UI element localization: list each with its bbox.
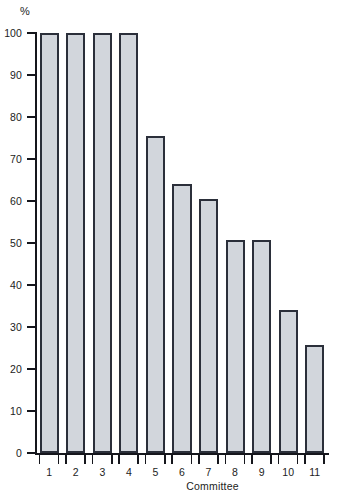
x-axis-tick <box>323 455 325 464</box>
x-axis-tick-label: 8 <box>232 466 238 478</box>
x-axis-tick <box>92 455 94 464</box>
bar <box>305 345 324 453</box>
x-axis-tick-label: 10 <box>282 466 294 478</box>
x-axis-tick <box>171 455 173 464</box>
x-axis-tick-label: 5 <box>152 466 158 478</box>
x-axis-tick <box>65 455 67 464</box>
bar <box>40 33 59 453</box>
x-axis-tick <box>118 455 120 464</box>
x-axis-tick-label: 11 <box>309 466 320 478</box>
x-axis-tick <box>84 455 86 464</box>
bar <box>146 136 165 453</box>
x-axis-tick-label: 1 <box>46 466 52 478</box>
x-axis-tick <box>217 455 219 464</box>
x-axis-tick-label: 9 <box>259 466 265 478</box>
bar <box>119 33 138 453</box>
bar <box>226 240 245 453</box>
bar <box>279 310 298 453</box>
x-axis-tick <box>251 455 253 464</box>
bar <box>252 240 271 453</box>
bar-chart: % 0102030405060708090100 1234567891011 C… <box>0 0 341 498</box>
x-axis-tick <box>270 455 272 464</box>
x-axis-tick-label: 3 <box>99 466 105 478</box>
x-axis-tick <box>225 455 227 464</box>
x-axis-tick <box>278 455 280 464</box>
x-axis-tick <box>164 455 166 464</box>
x-axis-tick <box>297 455 299 464</box>
bar <box>199 199 218 453</box>
x-axis-tick <box>198 455 200 464</box>
x-axis-tick-label: 6 <box>179 466 185 478</box>
x-axis-tick-label: 7 <box>206 466 212 478</box>
x-axis-tick <box>39 455 41 464</box>
x-axis-tick-label: 2 <box>73 466 79 478</box>
x-axis-title-text: Committee <box>186 480 239 492</box>
x-axis-tick <box>304 455 306 464</box>
bar <box>172 184 191 453</box>
x-axis-tick-label: 4 <box>126 466 132 478</box>
x-axis-tick <box>111 455 113 464</box>
bar <box>66 33 85 453</box>
bars-group <box>0 0 341 455</box>
x-axis-tick <box>244 455 246 464</box>
x-axis-title: Committee <box>0 480 341 492</box>
x-axis-tick <box>145 455 147 464</box>
x-axis-tick <box>191 455 193 464</box>
bar <box>93 33 112 453</box>
x-axis-tick <box>58 455 60 464</box>
x-axis-tick <box>137 455 139 464</box>
